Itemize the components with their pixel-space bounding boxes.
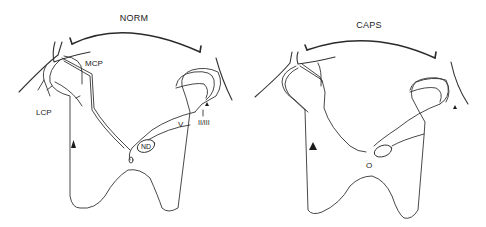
small-triangle-marker-norm: [205, 102, 209, 106]
large-triangle-marker-norm: [71, 140, 76, 148]
label-v: V: [178, 120, 184, 129]
label-mcp: MCP: [85, 59, 103, 68]
outer-bone-line-left-norm: [19, 42, 62, 92]
rotation-arrow-caps: [307, 41, 435, 58]
duct-line-inner-caps: [285, 68, 308, 112]
left-upper-outline-inner-caps: [302, 64, 322, 82]
bone-line-right-caps: [451, 62, 468, 104]
v-line-norm: [148, 125, 190, 140]
duct-line-outer-norm: [62, 58, 130, 150]
ampulla-double-line-norm: [50, 60, 221, 211]
arrow-head-right-caps: [435, 52, 436, 58]
canal-loop-inner-norm: [176, 84, 208, 99]
canal-loop-outer-caps: [410, 78, 448, 104]
panel-norm: NORM MCP LCP V: [19, 13, 232, 211]
nd-ellipse-caps: [373, 143, 394, 159]
inner-bone-line-left-caps: [297, 52, 335, 64]
panel-caps: CAPS O: [255, 20, 468, 218]
arrow-head-left-norm: [70, 38, 72, 44]
label-ii-iii: II/III: [198, 119, 210, 126]
label-canal-caps: O: [366, 161, 372, 170]
arrow-head-right-norm: [200, 46, 201, 52]
v-line-caps: [392, 134, 424, 146]
arrow-head-left-caps: [305, 45, 307, 50]
caps-curve: [318, 63, 321, 86]
diagram-canvas: NORM MCP LCP V: [0, 0, 486, 227]
large-triangle-marker-caps: [309, 142, 317, 150]
label-lcp: LCP: [36, 108, 52, 117]
label-nd: ND: [141, 143, 151, 150]
lcp-lower-branch: [55, 82, 82, 106]
panel-title-caps: CAPS: [356, 20, 382, 30]
panel-title-norm: NORM: [120, 13, 149, 23]
canal-loop-inner-caps: [410, 88, 441, 103]
bone-line-right-norm: [216, 58, 232, 100]
left-upper-outline-caps: [300, 66, 366, 152]
small-triangle-marker-caps: [453, 105, 457, 109]
rotation-arrow-norm: [72, 33, 200, 52]
